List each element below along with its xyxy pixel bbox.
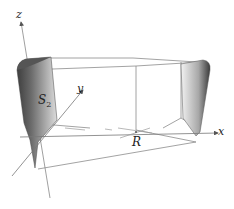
x-axis <box>20 133 218 137</box>
origin-label: R <box>132 136 141 148</box>
surface-label-subscript: 2 <box>46 100 51 109</box>
surface-label-name: S <box>38 93 46 107</box>
surface-right <box>181 60 210 136</box>
diagram-svg <box>0 0 234 209</box>
diagram-canvas: z y x R S2 <box>0 0 234 209</box>
x-axis-label: x <box>218 126 224 137</box>
z-axis-label: z <box>16 9 22 20</box>
surface-s2 <box>17 57 57 168</box>
origin-point <box>135 131 137 133</box>
surface-label: S2 <box>38 94 51 109</box>
y-axis-label: y <box>77 83 83 94</box>
